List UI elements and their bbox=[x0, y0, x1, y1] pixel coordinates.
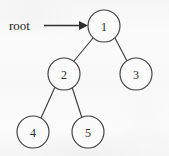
node-label-3: 3 bbox=[133, 68, 139, 82]
tree-edge-1-3 bbox=[115, 38, 127, 61]
node-label-2: 2 bbox=[61, 68, 67, 82]
binary-tree-figure: root 1 2 3 4 5 bbox=[0, 0, 169, 156]
tree-edge-2-4 bbox=[41, 87, 55, 118]
root-arrow-head bbox=[79, 21, 88, 30]
node-label-1: 1 bbox=[101, 20, 107, 34]
tree-edge-1-2 bbox=[74, 38, 93, 61]
tree-node-4[interactable]: 4 bbox=[17, 116, 49, 148]
node-label-4: 4 bbox=[30, 126, 36, 140]
root-label: root bbox=[9, 18, 30, 33]
node-label-5: 5 bbox=[85, 126, 91, 140]
tree-node-5[interactable]: 5 bbox=[72, 116, 104, 148]
tree-node-1[interactable]: 1 bbox=[88, 10, 120, 42]
tree-edge-2-5 bbox=[72, 87, 82, 118]
tree-canvas: root 1 2 3 4 5 bbox=[0, 0, 169, 156]
tree-node-2[interactable]: 2 bbox=[48, 58, 80, 90]
root-pointer-arrow bbox=[44, 21, 88, 30]
tree-node-3[interactable]: 3 bbox=[120, 58, 152, 90]
